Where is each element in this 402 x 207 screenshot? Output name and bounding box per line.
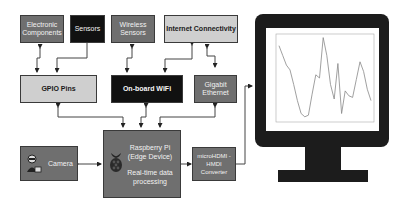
- monitor-neck: [305, 146, 341, 172]
- internet-connectivity-box: Internet Connectivity: [164, 15, 238, 43]
- electronic-components-box: Electronic Components: [20, 15, 64, 43]
- hdmi-converter-label: microHDMI - HMDI Converter: [193, 152, 235, 176]
- internet-connectivity-label: Internet Connectivity: [166, 25, 236, 33]
- onboard-wifi-label: On-board WiFi: [123, 85, 171, 93]
- camera-label: Camera: [48, 160, 73, 168]
- raspberry-pi-function-line1: Real-time data: [127, 168, 173, 177]
- onboard-wifi-box: On-board WiFi: [111, 75, 183, 103]
- wireless-sensors-label: Wireless Sensors: [112, 21, 154, 37]
- sensors-box: Sensors: [70, 15, 105, 43]
- gpio-pins-box: GPIO Pins: [20, 75, 97, 103]
- line-chart: [266, 28, 379, 131]
- sensors-label: Sensors: [75, 25, 101, 33]
- electronic-components-label: Electronic Components: [21, 21, 63, 37]
- gpio-pins-label: GPIO Pins: [41, 85, 75, 93]
- raspberry-pi-box: Raspberry Pi (Edge Device) Real-time dat…: [103, 130, 181, 198]
- monitor-icon: [255, 14, 389, 147]
- monitor-screen: [266, 28, 379, 131]
- raspberry-pi-subtitle: (Edge Device): [127, 152, 173, 161]
- monitor-base: [278, 170, 368, 182]
- raspberry-pi-title: Raspberry Pi: [127, 143, 173, 152]
- raspberry-pi-logo-icon: [108, 151, 124, 173]
- raspberry-pi-function-line2: processing: [127, 177, 173, 186]
- gigabit-ethernet-label: Gigabit Ethernet: [195, 81, 236, 97]
- raspberry-pi-text: Raspberry Pi (Edge Device) Real-time dat…: [127, 143, 173, 186]
- gigabit-ethernet-box: Gigabit Ethernet: [194, 75, 237, 103]
- wireless-sensors-box: Wireless Sensors: [111, 15, 155, 43]
- camera-person-icon: [26, 154, 42, 174]
- hdmi-converter-box: microHDMI - HMDI Converter: [192, 147, 236, 181]
- camera-box: Camera: [20, 146, 78, 181]
